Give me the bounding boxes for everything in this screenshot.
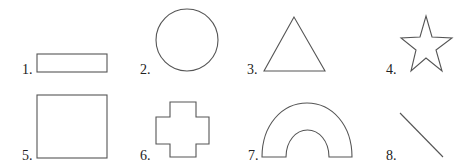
star-shape [401,16,452,71]
item-5-number: 5. [22,148,33,163]
item-4-number: 4. [386,62,397,77]
rectangle-shape [37,54,107,72]
item-1-number: 1. [22,62,33,77]
triangle-shape [264,17,325,71]
cross-shape [156,102,209,157]
item-3: 3. [247,17,325,77]
item-6: 6. [140,102,209,163]
circle-shape [156,9,218,71]
item-1: 1. [22,54,107,77]
item-6-number: 6. [140,148,151,163]
item-5: 5. [22,95,107,163]
item-8: 8. [386,113,443,163]
item-3-number: 3. [247,62,258,77]
item-7: 7. [248,103,352,163]
square-shape [37,95,107,158]
item-2-number: 2. [140,62,151,77]
item-7-number: 7. [248,148,259,163]
item-4: 4. [386,16,452,77]
arch-shape [262,103,352,157]
item-8-number: 8. [386,148,397,163]
item-2: 2. [140,9,218,77]
line-shape [400,113,443,157]
shapes-figure: 1. 2. 3. 4. 5. 6. 7. 8. [0,0,456,167]
